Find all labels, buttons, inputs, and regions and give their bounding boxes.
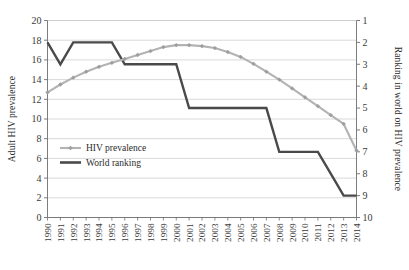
x-tick-label: 1994 — [94, 223, 104, 242]
x-tick-label: 2007 — [262, 223, 272, 242]
legend-label: World ranking — [86, 158, 141, 168]
x-tick-label: 1998 — [146, 223, 156, 242]
x-tick-label: 2002 — [197, 223, 207, 242]
left-tick-label: 10 — [32, 113, 42, 124]
left-tick-label: 12 — [32, 94, 42, 105]
x-tick-label: 1991 — [56, 223, 66, 242]
x-tick-label: 1996 — [120, 223, 130, 242]
left-tick-label: 6 — [37, 153, 42, 164]
left-tick-label: 16 — [32, 54, 42, 65]
x-tick-label: 2010 — [300, 223, 310, 242]
chart-container: 02468101214161820 12345678910 1990199119… — [0, 0, 409, 270]
right-tick-label: 9 — [363, 190, 368, 201]
x-tick-label: 2000 — [172, 223, 182, 242]
left-axis-title: Adult HIV prevalence — [7, 76, 17, 162]
right-tick-label: 5 — [363, 102, 368, 113]
x-tick-label: 2003 — [210, 223, 220, 242]
x-tick-label: 2005 — [236, 223, 246, 242]
right-axis-title: Ranking in world on HIV prevalence — [393, 47, 403, 191]
x-tick-label: 2008 — [275, 223, 285, 242]
left-tick-label: 8 — [37, 133, 42, 144]
dual-axis-line-chart: 02468101214161820 12345678910 1990199119… — [0, 0, 409, 270]
x-tick-label: 1993 — [82, 223, 92, 242]
right-tick-label: 2 — [363, 37, 368, 48]
x-tick-label: 2012 — [326, 223, 336, 242]
left-tick-label: 0 — [37, 212, 42, 223]
right-tick-label: 10 — [363, 212, 373, 223]
x-tick-label: 1999 — [159, 223, 169, 242]
x-tick-label: 1990 — [43, 223, 53, 242]
x-tick-label: 2011 — [313, 223, 323, 241]
left-tick-label: 4 — [37, 173, 42, 184]
x-tick-label: 2006 — [249, 223, 259, 242]
left-tick-label: 20 — [32, 15, 42, 26]
x-tick-label: 2009 — [288, 223, 298, 242]
right-tick-label: 3 — [363, 59, 368, 70]
right-tick-label: 7 — [363, 146, 368, 157]
right-tick-label: 4 — [363, 81, 368, 92]
left-tick-label: 14 — [32, 74, 42, 85]
right-tick-label: 1 — [363, 15, 368, 26]
x-tick-label: 2013 — [339, 223, 349, 242]
x-tick-label: 2001 — [185, 223, 195, 242]
legend-label: HIV prevalence — [86, 143, 146, 153]
x-tick-label: 2014 — [352, 223, 362, 242]
x-tick-label: 1992 — [69, 223, 79, 242]
left-tick-label: 2 — [37, 192, 42, 203]
x-tick-label: 2004 — [223, 223, 233, 242]
x-tick-label: 1997 — [133, 223, 143, 242]
right-tick-label: 6 — [363, 124, 368, 135]
right-tick-label: 8 — [363, 168, 368, 179]
left-tick-label: 18 — [32, 35, 42, 46]
x-tick-label: 1995 — [107, 223, 117, 242]
